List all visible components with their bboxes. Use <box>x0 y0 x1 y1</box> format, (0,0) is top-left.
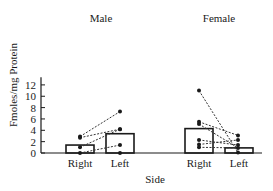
y-tick-label: 12 <box>25 79 36 91</box>
data-point <box>118 143 122 147</box>
data-point <box>78 136 82 140</box>
x-tick-label: Left <box>111 157 129 169</box>
pair-line <box>80 145 120 153</box>
data-point <box>78 145 82 149</box>
y-tick-label: 10 <box>25 90 37 102</box>
data-point <box>118 127 122 131</box>
data-point <box>197 89 201 93</box>
data-point <box>197 138 201 142</box>
y-axis-title: Fmoles/mg Protein <box>7 42 19 127</box>
group-label-male: Male <box>90 12 113 24</box>
chart: 024681012 Fmoles/mg ProteinSideMaleRight… <box>0 0 273 191</box>
data-point <box>118 151 122 155</box>
pair-lines <box>80 91 238 153</box>
x-tick-label: Left <box>230 157 248 169</box>
y-tick-label: 2 <box>31 136 37 148</box>
axes: 024681012 <box>25 77 262 159</box>
data-points <box>78 89 240 155</box>
data-point <box>197 145 201 149</box>
group-label-female: Female <box>203 12 235 24</box>
data-point <box>236 133 240 137</box>
pair-line <box>199 147 238 148</box>
y-tick-label: 8 <box>31 102 37 114</box>
labels: Fmoles/mg ProteinSideMaleRightLeftFemale… <box>7 12 248 185</box>
y-tick-label: 6 <box>31 113 37 125</box>
data-point <box>236 146 240 150</box>
y-tick-label: 4 <box>31 124 37 136</box>
y-tick-label: 0 <box>31 147 37 159</box>
pair-line <box>80 112 120 137</box>
data-point <box>236 150 240 154</box>
x-tick-label: Right <box>68 157 92 169</box>
data-point <box>118 110 122 114</box>
x-axis-title: Side <box>145 173 165 185</box>
data-point <box>236 138 240 142</box>
pair-line <box>199 91 238 153</box>
x-tick-label: Right <box>187 157 211 169</box>
data-point <box>78 151 82 155</box>
data-point <box>197 122 201 126</box>
